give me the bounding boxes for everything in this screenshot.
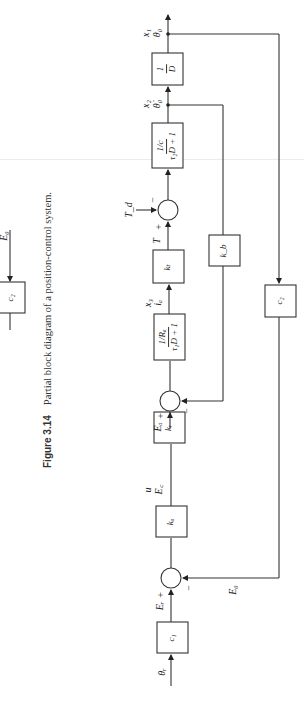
figure-caption-text: Partial block diagram of a position-cont… (42, 192, 53, 405)
signal-Ec: E꜀ (154, 485, 164, 494)
block-integrator-tf: 1D (156, 64, 178, 75)
signal-T: T (152, 238, 162, 244)
sum3-plus-sign: + (154, 224, 164, 230)
sum2-minus-sign: − (182, 408, 192, 414)
partial-signal-label: E₀ (0, 231, 9, 241)
signal-E0: E₀ (228, 585, 238, 595)
signal-Ea: Eₐ (153, 422, 163, 431)
partial-c2-block-label: c₂ (6, 294, 15, 301)
signal-ia: iₐ (153, 300, 163, 306)
sum3-minus-sign: − (148, 197, 158, 203)
signal-theta-o: θ₀ (152, 29, 162, 37)
block-mechanical-tf: 1/cτ₂D + 1 (156, 130, 178, 162)
signal-x1: x₁ (141, 29, 151, 37)
signal-x2: x₂ (141, 100, 151, 108)
sum1-minus-sign: − (184, 585, 194, 591)
signal-theta-r: θᵣ (157, 668, 167, 675)
figure-number: Figure 3.14 (42, 415, 53, 468)
mechanical-numerator: 1/c (156, 139, 167, 154)
signal-Er: Eᵣ (155, 602, 165, 611)
figure-caption: Figure 3.14Partial block diagram of a po… (42, 192, 53, 468)
integrator-denominator: D (168, 64, 178, 75)
block-kt-label: kₜ (163, 264, 172, 271)
block-armature-tf: 1/Rₐτ₁D + 1 (158, 321, 180, 353)
signal-theta-dot: θ̇₀ (152, 100, 162, 108)
signal-u: u (143, 488, 153, 493)
signal-Td: T_d (124, 202, 134, 218)
armature-denominator: τ₁D + 1 (170, 321, 180, 353)
integrator-numerator: 1 (156, 65, 167, 74)
block-c2-label: c₂ (275, 297, 284, 304)
block-ka-label: kₐ (166, 519, 175, 526)
sum1-plus-sign: + (156, 592, 166, 598)
sum2-plus-sign: + (156, 413, 166, 419)
mechanical-denominator: τ₂D + 1 (168, 130, 178, 162)
armature-numerator: 1/Rₐ (158, 327, 169, 346)
block-c1-label: c₁ (167, 634, 176, 641)
block-kr-label: kᵣ (164, 425, 173, 431)
block-kb-label: k_b (219, 245, 228, 258)
